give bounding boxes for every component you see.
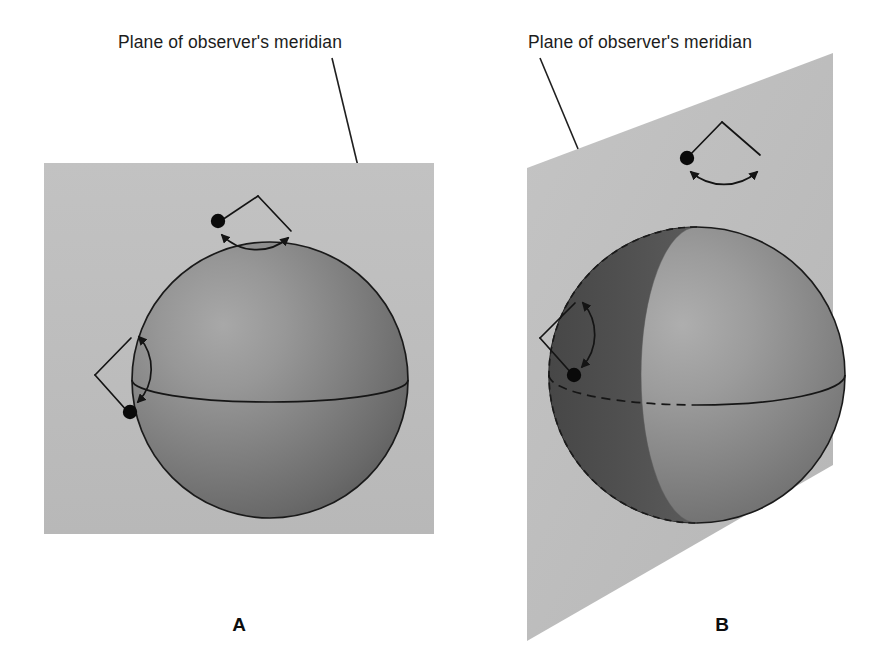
panel-b-top-marker-dot xyxy=(680,151,694,165)
panel-a: Plane of observer's meridian xyxy=(44,32,434,635)
panel-b-caption: Plane of observer's meridian xyxy=(528,32,752,52)
figure-root: Plane of observer's meridian xyxy=(0,0,892,670)
panel-a-caption: Plane of observer's meridian xyxy=(118,32,342,52)
panel-a-sphere xyxy=(132,242,408,518)
panel-a-left-marker-dot xyxy=(123,405,137,419)
panel-b-left-marker-dot xyxy=(567,368,581,382)
panel-b: Plane of observer's meridian xyxy=(527,32,845,641)
panel-a-letter: A xyxy=(232,614,246,635)
panel-b-letter: B xyxy=(715,614,729,635)
meridian-plane-figure: Plane of observer's meridian xyxy=(0,0,892,670)
panel-a-top-marker-dot xyxy=(211,214,225,228)
